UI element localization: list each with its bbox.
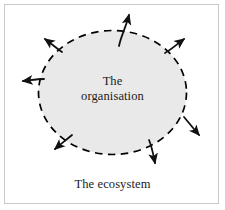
arrow-upper-right <box>165 39 184 53</box>
organisation-label: The organisation <box>0 74 225 103</box>
arrow-lower-right <box>184 117 199 135</box>
arrow-upper-left <box>45 39 62 52</box>
figure-root: The organisation The ecosystem <box>0 0 225 210</box>
organisation-label-line-2: organisation <box>0 89 225 104</box>
ecosystem-label: The ecosystem <box>0 177 225 192</box>
organisation-label-line-1: The <box>0 74 225 89</box>
